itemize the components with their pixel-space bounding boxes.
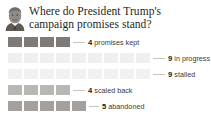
unit-square bbox=[24, 53, 38, 63]
unit-square bbox=[40, 101, 54, 111]
square-group-scaled-back bbox=[0, 85, 70, 95]
page-title: Where do President Trump's campaign prom… bbox=[27, 4, 209, 30]
unit-square bbox=[120, 69, 134, 79]
square-group-stalled bbox=[0, 69, 150, 79]
chart-row-label-stalled: 9 stalled bbox=[168, 70, 195, 79]
chart-row-count: 5 bbox=[102, 102, 106, 111]
chart-row-in-progress: 9 in progress bbox=[0, 50, 211, 66]
unit-square bbox=[56, 69, 70, 79]
unit-square bbox=[120, 53, 134, 63]
unit-square bbox=[56, 53, 70, 63]
chart-row-category: stalled bbox=[174, 70, 195, 79]
unit-square bbox=[56, 85, 70, 95]
chart-header: Where do President Trump's campaign prom… bbox=[0, 0, 211, 34]
square-group-abandoned bbox=[0, 101, 86, 111]
chart-row-scaled-back: 4 scaled back bbox=[0, 82, 211, 98]
chart-row-label-scaled-back: 4 scaled back bbox=[88, 86, 132, 95]
chart-row-category: promises kept bbox=[94, 38, 139, 47]
unit-square bbox=[8, 69, 22, 79]
unit-square bbox=[88, 53, 102, 63]
chart-row-label-in-progress: 9 in progress bbox=[168, 54, 210, 63]
unit-square bbox=[104, 53, 118, 63]
chart-row-count: 9 bbox=[168, 54, 172, 63]
chart-row-count: 4 bbox=[88, 86, 92, 95]
unit-square bbox=[72, 53, 86, 63]
unit-square bbox=[72, 101, 86, 111]
chart-row-category: in progress bbox=[174, 54, 210, 63]
square-group-in-progress bbox=[0, 53, 150, 63]
chart-row-stalled: 9 stalled bbox=[0, 66, 211, 82]
trump-portrait-icon bbox=[3, 5, 27, 32]
unit-square bbox=[104, 69, 118, 79]
unit-square bbox=[40, 69, 54, 79]
square-group-promises-kept bbox=[0, 37, 70, 47]
unit-square bbox=[8, 101, 22, 111]
unit-square bbox=[24, 101, 38, 111]
unit-square bbox=[24, 37, 38, 47]
unit-square bbox=[8, 37, 22, 47]
unit-square bbox=[56, 101, 70, 111]
unit-square bbox=[40, 37, 54, 47]
leader-line bbox=[89, 106, 99, 107]
chart-row-label-abandoned: 5 abandoned bbox=[102, 102, 144, 111]
leader-line bbox=[153, 58, 165, 59]
leader-line bbox=[153, 74, 165, 75]
unit-square bbox=[72, 69, 86, 79]
chart-row-count: 9 bbox=[168, 70, 172, 79]
leader-line bbox=[73, 42, 85, 43]
unit-square bbox=[40, 53, 54, 63]
promise-status-chart: 4 promises kept 9 in progress bbox=[0, 34, 211, 114]
chart-row-abandoned: 5 abandoned bbox=[0, 98, 211, 114]
chart-row-category: abandoned bbox=[108, 102, 144, 111]
unit-square bbox=[88, 69, 102, 79]
unit-square bbox=[8, 53, 22, 63]
chart-row-category: scaled back bbox=[94, 86, 132, 95]
chart-row-label-promises-kept: 4 promises kept bbox=[88, 38, 139, 47]
chart-row-promises-kept: 4 promises kept bbox=[0, 34, 211, 50]
unit-square bbox=[24, 69, 38, 79]
unit-square bbox=[40, 85, 54, 95]
unit-square bbox=[56, 37, 70, 47]
unit-square bbox=[136, 69, 150, 79]
unit-square bbox=[24, 85, 38, 95]
leader-line bbox=[73, 90, 85, 91]
chart-row-count: 4 bbox=[88, 38, 92, 47]
unit-square bbox=[136, 53, 150, 63]
unit-square bbox=[8, 85, 22, 95]
